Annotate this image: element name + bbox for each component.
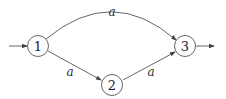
state-2: 2 <box>102 75 123 96</box>
state-3-label: 3 <box>181 39 189 54</box>
edge-2-3: a <box>123 52 175 80</box>
edge-1-2: a <box>48 51 101 80</box>
edge-label-2-3: a <box>147 65 154 79</box>
edge-label-1-2: a <box>66 65 73 79</box>
state-1: 1 <box>28 36 49 57</box>
state-1-label: 1 <box>34 39 42 54</box>
state-3: 3 <box>175 36 196 57</box>
edge-label-1-3: a <box>108 5 115 19</box>
automaton-diagram: a a a 1 2 3 <box>0 0 226 99</box>
edge-1-3: a <box>46 5 176 40</box>
state-2-label: 2 <box>108 78 116 93</box>
